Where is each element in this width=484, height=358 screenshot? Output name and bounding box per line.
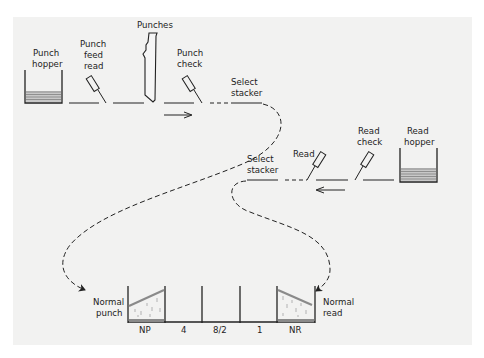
direction-arrow-right-icon: [164, 112, 192, 118]
read-hopper: [400, 148, 437, 182]
select-stacker-bottom-label-2: stacker: [247, 165, 279, 175]
card-path-diagram: Punch hopper Punch feed read Punches Pun…: [0, 0, 484, 358]
punches-label: Punches: [137, 20, 173, 30]
punch-hopper-label-1: Punch: [33, 48, 59, 58]
select-stacker-top-label-2: stacker: [231, 88, 263, 98]
punch-feed-read-label-2: feed: [84, 50, 103, 60]
normal-punch-label-1: Normal: [93, 297, 124, 307]
pocket-label-8-2: 8/2: [213, 325, 227, 335]
direction-arrow-left-icon: [316, 187, 345, 193]
pocket-label-4: 4: [181, 325, 186, 335]
read-label: Read: [293, 149, 315, 159]
read-check-label-2: check: [357, 137, 382, 147]
stacker-pockets: [128, 286, 315, 323]
punch-hopper: [25, 70, 62, 103]
normal-read-label-2: read: [323, 308, 342, 318]
select-stacker-bottom-label-1: Select: [247, 154, 274, 164]
punch-check-label-1: Punch: [177, 48, 203, 58]
punch-feed-read-label-3: read: [84, 61, 103, 71]
read-hopper-label-1: Read: [407, 126, 429, 136]
punch-check-label-2: check: [177, 59, 202, 69]
pocket-label-np: NP: [139, 325, 151, 335]
punch-hopper-label-2: hopper: [32, 59, 63, 69]
normal-read-label-1: Normal: [323, 297, 354, 307]
punches-icon: [143, 33, 157, 102]
normal-punch-label-2: punch: [96, 308, 123, 318]
punch-feed-read-label-1: Punch: [80, 39, 106, 49]
read-hopper-label-2: hopper: [404, 137, 435, 147]
punch-check-brush-icon: [182, 76, 202, 103]
pocket-label-1: 1: [257, 325, 262, 335]
select-stacker-top-label-1: Select: [231, 77, 258, 87]
read-check-label-1: Read: [358, 126, 380, 136]
pocket-label-nr: NR: [289, 325, 301, 335]
punch-feed-read-brush-icon: [86, 76, 106, 103]
punch-card-path: [63, 104, 281, 290]
read-card-path: [232, 181, 330, 291]
read-check-brush-icon: [355, 152, 374, 180]
